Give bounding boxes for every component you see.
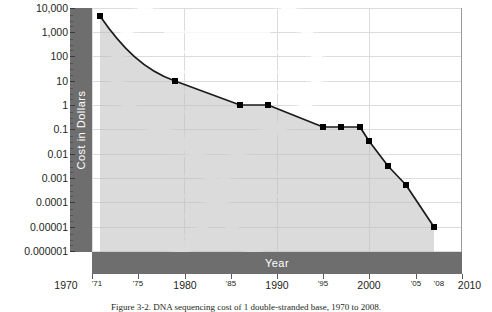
y-minor-tick <box>70 234 73 235</box>
y-minor-tick <box>70 99 73 100</box>
y-tick-label: 0.000001 <box>0 246 68 257</box>
data-point <box>357 124 363 130</box>
y-tick <box>70 32 75 33</box>
x-tick-label: '75 <box>127 280 149 288</box>
y-minor-tick <box>70 221 73 222</box>
data-point <box>385 163 391 169</box>
y-minor-tick <box>70 167 73 168</box>
figure-caption: Figure 3-2. DNA sequencing cost of 1 dou… <box>0 302 492 312</box>
y-tick-label: 0.01 <box>0 149 68 160</box>
y-minor-tick <box>70 63 73 64</box>
data-point <box>431 224 437 230</box>
data-point <box>403 182 409 188</box>
data-point <box>237 102 243 108</box>
y-tick-label: 10,000 <box>0 3 68 14</box>
y-tick-label: 10 <box>0 76 68 87</box>
y-axis-band: Cost in Dollars <box>70 8 92 252</box>
x-tick-label: '05 <box>405 280 427 288</box>
data-point <box>320 124 326 130</box>
y-minor-tick <box>70 185 73 186</box>
y-minor-tick <box>70 196 73 197</box>
data-point <box>265 102 271 108</box>
y-minor-tick <box>70 45 73 46</box>
y-minor-tick <box>70 148 73 149</box>
y-minor-tick <box>70 191 73 192</box>
x-tick-label: '95 <box>312 280 334 288</box>
y-minor-tick <box>70 26 73 27</box>
y-minor-tick <box>70 142 73 143</box>
x-tick-label: 1990 <box>251 280 303 291</box>
y-minor-tick <box>70 161 73 162</box>
x-tick-label: 1970 <box>40 280 92 291</box>
y-minor-tick <box>70 88 73 89</box>
y-tick <box>70 81 75 82</box>
x-tick-label: 2010 <box>447 280 492 291</box>
y-minor-tick <box>70 136 73 137</box>
y-minor-tick <box>70 215 73 216</box>
y-minor-tick <box>70 172 73 173</box>
y-tick <box>70 129 75 130</box>
y-minor-tick <box>70 123 73 124</box>
y-minor-tick <box>70 245 73 246</box>
y-tick-label: 0.0001 <box>0 197 68 208</box>
y-tick-label: 0.1 <box>0 124 68 135</box>
y-minor-tick <box>70 15 73 16</box>
y-minor-tick <box>70 118 73 119</box>
data-point <box>366 138 372 144</box>
y-tick <box>70 56 75 57</box>
y-minor-tick <box>70 39 73 40</box>
y-tick-label: 1 <box>0 100 68 111</box>
y-tick <box>70 8 75 9</box>
y-minor-tick <box>70 21 73 22</box>
data-point <box>172 78 178 84</box>
y-minor-tick <box>70 69 73 70</box>
x-tick-label: 2000 <box>343 280 395 291</box>
y-tick <box>70 227 75 228</box>
figure-dna-sequencing-cost: Cost in Dollars 10,000 1,000 100 10 1 0.… <box>0 0 492 312</box>
y-minor-tick <box>70 75 73 76</box>
cost-series <box>92 8 462 252</box>
y-minor-tick <box>70 112 73 113</box>
y-tick-label: 100 <box>0 51 68 62</box>
y-tick-label: 0.00001 <box>0 222 68 233</box>
y-tick <box>70 251 75 252</box>
data-point <box>338 124 344 130</box>
y-axis-title: Cost in Dollars <box>75 90 87 169</box>
y-minor-tick <box>70 94 73 95</box>
y-tick <box>70 154 75 155</box>
y-tick <box>70 105 75 106</box>
y-tick <box>70 178 75 179</box>
plot-area <box>92 8 462 252</box>
x-axis-title: Year <box>265 257 289 269</box>
gridline-v <box>461 8 462 252</box>
y-minor-tick <box>70 209 73 210</box>
y-minor-tick <box>70 50 73 51</box>
x-tick-label: '71 <box>86 280 108 288</box>
y-tick-label: 0.001 <box>0 173 68 184</box>
y-tick-label: 1,000 <box>0 27 68 38</box>
x-tick-label: 1980 <box>159 280 211 291</box>
y-minor-tick <box>70 240 73 241</box>
y-tick <box>70 202 75 203</box>
x-tick-label: '85 <box>220 280 242 288</box>
x-axis-band: Year <box>92 252 462 274</box>
data-point <box>97 13 103 19</box>
series-area <box>100 16 434 252</box>
